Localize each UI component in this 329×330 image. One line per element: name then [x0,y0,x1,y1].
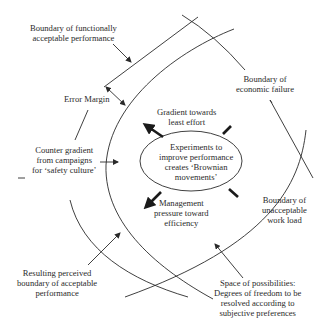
lower-right-stub [229,189,238,197]
functional-boundary-line [104,17,198,87]
perceived-boundary-label: Resulting perceived boundary of acceptab… [17,268,97,298]
functional-boundary-pointer [113,44,131,62]
error-margin-label: Error Margin [64,94,109,104]
functional-boundary-label: Boundary of functionally acceptable perf… [30,23,117,43]
counter-gradient-arc-fragment [75,110,88,140]
least-effort-arrow [150,128,163,137]
space-of-possibilities-label: Space of possibilities: Degrees of freed… [214,278,301,318]
experiments-label: Experiments to improve performance creat… [159,142,233,182]
perceived-boundary-pointer [88,233,120,265]
economic-failure-line [182,15,245,70]
management-pressure-label: Management pressure toward efficiency [154,198,209,228]
unacceptable-workload-label: Boundary of unacceptable work load [262,195,307,225]
counter-gradient-label: Counter gradient from campaigns for ‘saf… [32,145,96,175]
least-effort-label: Gradient towards least effort [157,107,216,127]
upper-right-stub [223,126,231,134]
space-possibilities-pointer [215,244,243,278]
economic-failure-line-2 [270,100,313,178]
economic-failure-label: Boundary of economic failure [236,74,294,94]
